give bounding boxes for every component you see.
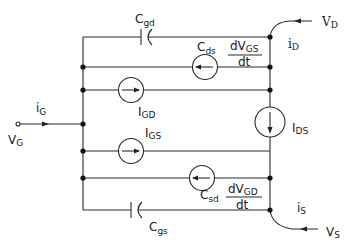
ids-source-branch [255, 107, 285, 137]
igd-label: IGD [138, 105, 156, 120]
left-arrow-icon [294, 19, 301, 24]
igs-label: IGS [145, 126, 162, 141]
gate-terminal[interactable] [16, 122, 20, 126]
cds-frac-numerator: dVGS [230, 39, 259, 54]
junction-dot [267, 175, 272, 180]
vs-label: VS [326, 225, 340, 240]
id-label: iD [288, 37, 299, 52]
mosfet-equivalent-circuit: Cgd Cds dVGS dt IGD iG VG IDS IGS [0, 0, 352, 248]
cds-label: Cds [197, 40, 216, 56]
igs-source-branch [83, 139, 270, 164]
csd-frac-numerator: dVGD [228, 182, 258, 197]
junction-dot [267, 34, 272, 39]
junction-dot [80, 148, 85, 153]
cgs-label: Cgs [149, 220, 168, 236]
junction-dot [267, 87, 272, 92]
junction-dot [267, 207, 272, 212]
junction-dot [80, 64, 85, 69]
vg-label: VG [8, 133, 23, 148]
csd-label: Csd [200, 188, 219, 204]
cds-frac-denominator: dt [238, 55, 251, 69]
drain-terminal[interactable] [270, 19, 312, 38]
junction-dot [80, 121, 85, 126]
junction-dot [80, 175, 85, 180]
junction-dot [80, 87, 85, 92]
igd-source-branch [83, 78, 270, 103]
ids-label: IDS [292, 121, 308, 136]
source-terminal[interactable] [270, 210, 318, 232]
is-label: iS [297, 201, 306, 216]
junction-dot [267, 64, 272, 69]
ig-label: iG [36, 101, 46, 117]
right-arrow-icon [42, 122, 49, 127]
left-arrow-icon [300, 227, 307, 232]
vd-label: VD [321, 15, 338, 30]
gate-input [16, 122, 83, 127]
cgd-label: Cgd [135, 12, 155, 28]
